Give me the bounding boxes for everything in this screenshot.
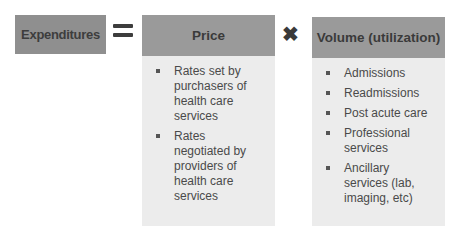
list-item: Readmissions: [326, 86, 436, 101]
volume-column: Volume (utilization) Admissions Readmiss…: [312, 17, 445, 226]
equals-icon: [113, 24, 133, 42]
price-header: Price: [142, 15, 275, 56]
list-item: Professional services: [326, 126, 436, 156]
price-column: Price Rates set by purchasers of health …: [142, 15, 275, 226]
list-item: Post acute care: [326, 106, 436, 121]
list-item: Rates negotiated by providers of health …: [156, 129, 259, 204]
multiply-icon: ✖: [282, 24, 299, 44]
price-list: Rates set by purchasers of health care s…: [142, 56, 275, 215]
expenditures-box: Expenditures: [15, 15, 106, 54]
list-item: Rates set by purchasers of health care s…: [156, 64, 259, 124]
volume-header: Volume (utilization): [312, 17, 445, 58]
list-item: Ancillary services (lab, imaging, etc): [326, 161, 436, 206]
volume-list: Admissions Readmissions Post acute care …: [312, 58, 445, 217]
expenditures-label: Expenditures: [21, 27, 100, 42]
list-item: Admissions: [326, 66, 436, 81]
